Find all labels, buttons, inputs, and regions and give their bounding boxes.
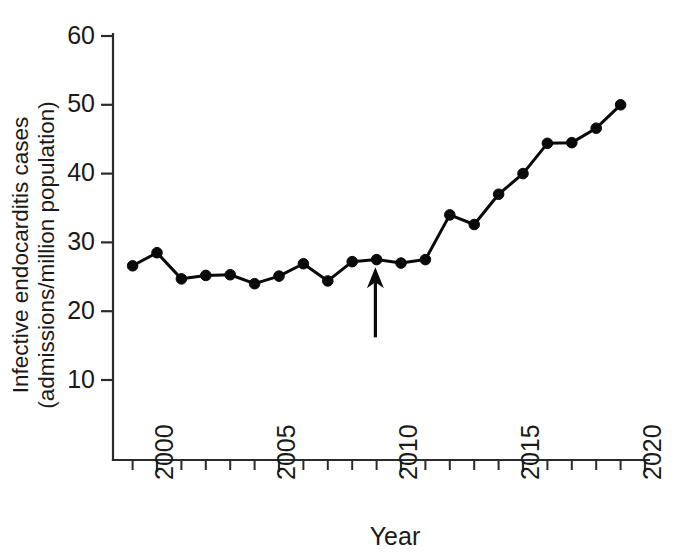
y-axis-title-line2: (admissions/million population) [34,101,59,409]
data-point-marker [298,258,309,269]
data-point-marker [542,138,553,149]
data-point-marker [567,137,578,148]
data-point-marker [591,123,602,134]
data-point-marker [176,274,187,285]
data-point-marker [127,260,138,271]
y-tick-label: 20 [67,296,95,324]
x-tick-label: 2000 [150,424,178,480]
y-tick-label: 30 [67,227,95,255]
data-point-marker [225,269,236,280]
x-tick-label: 2005 [272,424,300,480]
x-axis-tick-labels: 20002005201020152020 [150,424,666,480]
data-point-marker [201,270,212,281]
y-tick-label: 60 [67,21,95,49]
y-axis-ticks: 102030405060 [67,21,113,393]
data-point-marker [249,278,260,289]
data-point-marker [469,219,480,230]
line-chart: Infective endocarditis cases (admissions… [0,0,677,557]
data-point-marker [493,189,504,200]
x-tick-label: 2015 [516,424,544,480]
data-point-marker [420,254,431,265]
data-point-marker [396,258,407,269]
y-axis-title-line1: Infective endocarditis cases [8,117,33,393]
series-markers [127,100,626,289]
data-point-marker [371,254,382,265]
data-point-marker [518,168,529,179]
x-tick-label: 2010 [394,424,422,480]
annotation-arrow-group [367,267,384,337]
x-axis-title: Year [370,522,421,550]
y-tick-label: 50 [67,89,95,117]
data-point-marker [152,247,163,258]
y-tick-label: 10 [67,365,95,393]
chart-figure: Infective endocarditis cases (admissions… [0,0,677,557]
data-point-marker [274,271,285,282]
data-point-marker [445,210,456,221]
data-point-marker [323,276,334,287]
data-point-marker [347,256,358,267]
x-axis-ticks [133,460,645,472]
x-tick-label: 2020 [638,424,666,480]
data-point-marker [615,100,626,111]
y-tick-label: 40 [67,158,95,186]
